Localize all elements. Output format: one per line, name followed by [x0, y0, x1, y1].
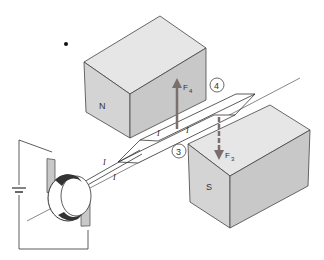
- current-label-3: I: [102, 158, 106, 167]
- side-4-marker: 4: [210, 78, 224, 92]
- north-label: N: [99, 101, 106, 111]
- f4-label: F: [183, 83, 188, 92]
- current-label-2: I: [156, 129, 160, 138]
- current-label-1: I: [185, 126, 189, 135]
- svg-text:4: 4: [214, 81, 219, 91]
- current-label-4: I: [112, 173, 116, 182]
- south-label: S: [206, 182, 212, 192]
- dc-motor-diagram: N F 4 4 S F 3 3 I I I: [0, 0, 324, 260]
- dot-marker: [64, 42, 68, 46]
- svg-text:3: 3: [176, 147, 181, 157]
- f3-label: F: [225, 151, 230, 160]
- side-3-marker: 3: [172, 144, 186, 158]
